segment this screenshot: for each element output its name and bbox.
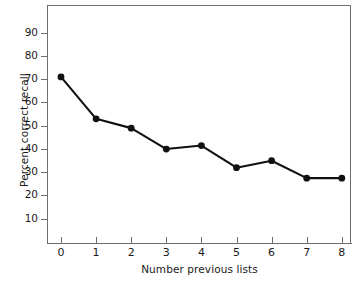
x-tick-mark: [131, 237, 132, 243]
x-tick-label: 8: [330, 246, 354, 260]
y-axis-title: Percent correct recall: [18, 50, 30, 210]
y-tick-mark: [41, 79, 47, 80]
chart-figure: 90 80 70 60 50 40 30 20 10 0 1: [0, 0, 360, 284]
x-tick-label: 7: [295, 246, 319, 260]
x-axis-line: [47, 243, 352, 244]
y-tick-mark: [41, 149, 47, 150]
x-tick-mark: [166, 237, 167, 243]
cropped-caption-sliver: [0, 0, 360, 4]
y-tick-mark: [41, 56, 47, 57]
x-tick-mark: [201, 237, 202, 243]
x-tick-mark: [272, 237, 273, 243]
y-tick-mark: [41, 195, 47, 196]
x-tick-label: 1: [84, 246, 108, 260]
y-tick-mark: [41, 172, 47, 173]
y-tick-mark: [41, 126, 47, 127]
y-tick-label: 90: [25, 26, 38, 39]
x-tick-mark: [307, 237, 308, 243]
x-tick-label: 3: [154, 246, 178, 260]
y-tick-label: 10: [25, 212, 38, 225]
x-tick-mark: [96, 237, 97, 243]
x-tick-label: 6: [260, 246, 284, 260]
x-tick-mark: [61, 237, 62, 243]
x-tick-mark: [342, 237, 343, 243]
y-tick-mark: [41, 219, 47, 220]
x-axis-title: Number previous lists: [47, 263, 352, 275]
x-tick-label: 5: [225, 246, 249, 260]
x-tick-mark: [237, 237, 238, 243]
y-tick-mark: [41, 102, 47, 103]
x-tick-label: 0: [49, 246, 73, 260]
x-tick-label: 2: [119, 246, 143, 260]
plot-frame: [47, 5, 351, 243]
y-tick-mark: [41, 33, 47, 34]
x-tick-label: 4: [189, 246, 213, 260]
